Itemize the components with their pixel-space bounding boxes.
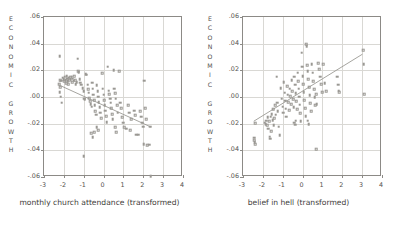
y-axis-title-letter: H: [208, 147, 213, 156]
scatter-point: [308, 86, 311, 89]
scatter-point: [97, 95, 100, 98]
gridline-horizontal: [243, 44, 380, 45]
scatter-point: [112, 69, 115, 72]
scatter-point: [304, 107, 307, 110]
scatter-point: [336, 75, 339, 78]
y-tick-labels-left: .06.04.02.00-.02-.04-.06: [18, 0, 40, 227]
scatter-point: [82, 90, 85, 93]
scatter-point: [310, 63, 313, 66]
scatter-point: [110, 107, 113, 110]
x-tick: [104, 175, 105, 178]
y-tick-label: .04: [30, 39, 40, 47]
scatter-point: [276, 101, 279, 104]
scatter-point: [273, 117, 276, 120]
gridline-horizontal: [243, 97, 380, 98]
scatter-point: [296, 108, 299, 111]
scatter-point: [274, 113, 277, 116]
scatter-point: [115, 97, 118, 100]
x-tick: [362, 175, 363, 178]
scatter-point: [284, 107, 287, 110]
scatter-point: [302, 91, 305, 94]
scatter-point: [140, 115, 143, 118]
gridline-horizontal: [44, 44, 181, 45]
scatter-point: [298, 95, 301, 98]
y-tick-label: -.06: [227, 172, 239, 180]
scatter-point: [113, 87, 116, 90]
scatter-point: [83, 98, 86, 101]
y-tick: [240, 97, 243, 98]
scatter-point: [299, 120, 302, 123]
scatter-point: [114, 126, 117, 129]
scatter-point: [362, 49, 365, 52]
scatter-point: [275, 75, 278, 78]
y-axis-title-letter: C: [9, 82, 13, 91]
scatter-point: [318, 68, 321, 71]
scatter-point: [276, 110, 279, 113]
x-tick: [382, 175, 383, 178]
x-axis-title-left: monthly church attendance (transformed): [0, 198, 199, 207]
scatter-point: [362, 63, 365, 66]
y-tick-labels-right: .06.04.02.00-.02-.04-.06: [217, 0, 239, 227]
scatter-point: [270, 113, 273, 116]
scatter-point: [93, 99, 96, 102]
y-tick-label: .02: [229, 65, 239, 73]
scatter-point: [76, 57, 79, 60]
scatter-point: [109, 101, 112, 104]
x-tick: [183, 175, 184, 178]
x-tick-label: 0: [300, 181, 304, 189]
scatter-point: [137, 133, 140, 136]
y-tick-label: .04: [229, 39, 239, 47]
scatter-point: [306, 64, 309, 67]
scatter-point: [321, 91, 324, 94]
scatter-point: [125, 127, 128, 130]
scatter-point: [297, 80, 300, 83]
y-tick: [240, 150, 243, 151]
scatter-point: [319, 75, 322, 78]
scatter-point: [278, 134, 281, 137]
scatter-point: [91, 87, 94, 90]
scatter-point: [121, 116, 124, 119]
scatter-point: [282, 81, 285, 84]
y-axis-title-right: ECONOMICGROWTH: [203, 16, 217, 176]
scatter-point: [133, 109, 136, 112]
scatter-point: [143, 79, 146, 82]
y-tick-label: .00: [30, 92, 40, 100]
scatter-point: [119, 101, 122, 104]
scatter-point: [300, 51, 303, 54]
scatter-point: [108, 93, 111, 96]
x-tick-label: -1: [279, 181, 285, 189]
scatter-point: [118, 70, 121, 73]
scatter-point: [122, 121, 125, 124]
x-tick: [342, 175, 343, 178]
gridline-horizontal: [44, 150, 181, 151]
y-tick-label: -.06: [28, 172, 40, 180]
scatter-point: [294, 92, 297, 95]
gridline-horizontal: [44, 97, 181, 98]
scatter-point: [105, 121, 108, 124]
scatter-point: [306, 119, 309, 122]
x-tick-label: -2: [60, 181, 66, 189]
scatter-point: [363, 93, 366, 96]
scatter-point: [290, 79, 293, 82]
scatter-point: [270, 115, 273, 118]
scatter-point: [117, 111, 120, 114]
scatter-point: [86, 83, 89, 86]
x-tick-label: 0: [101, 181, 105, 189]
scatter-point: [98, 106, 101, 109]
x-tick: [84, 175, 85, 178]
x-tick-label: 3: [359, 181, 363, 189]
scatter-point: [298, 103, 301, 106]
x-tick: [143, 175, 144, 178]
y-tick: [41, 97, 44, 98]
scatter-point: [102, 93, 105, 96]
scatter-point: [325, 90, 328, 93]
scatter-point: [315, 148, 318, 151]
scatter-point: [254, 122, 257, 125]
y-tick: [41, 124, 44, 125]
scatter-point: [93, 131, 96, 134]
scatter-point: [103, 99, 106, 102]
gridline-horizontal: [243, 150, 380, 151]
scatter-point: [308, 94, 311, 97]
scatter-point: [320, 83, 323, 86]
scatter-point: [289, 95, 292, 98]
